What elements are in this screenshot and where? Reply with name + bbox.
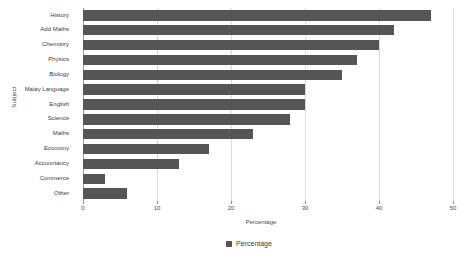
category-label: Other (0, 189, 69, 197)
category-label: English (0, 100, 69, 108)
bar-maths (83, 129, 253, 139)
bar-row: Commerce (83, 171, 453, 186)
bar-row: Maths (83, 127, 453, 142)
category-label: Economy (0, 144, 69, 152)
bar-chemistry (83, 40, 379, 50)
chart-legend: Percentage (0, 240, 462, 247)
category-label: Maths (0, 129, 69, 137)
x-tick-mark-20 (231, 201, 232, 204)
category-label: History (0, 11, 69, 19)
x-tick-mark-30 (305, 201, 306, 204)
x-tick-mark-40 (379, 201, 380, 204)
legend-label-percentage: Percentage (236, 240, 272, 247)
bar-row: Physics (83, 53, 453, 68)
bar-row: English (83, 97, 453, 112)
x-tick-label-0: 0 (68, 205, 98, 211)
category-label: Chemistry (0, 40, 69, 48)
bar-row: Malay Language (83, 82, 453, 97)
bar-physics (83, 55, 357, 65)
x-tick-mark-50 (453, 201, 454, 204)
bar-row: History (83, 8, 453, 23)
category-label: Accountancy (0, 159, 69, 167)
category-label: Add Maths (0, 25, 69, 33)
category-label: Malay Language (0, 85, 69, 93)
plot-area: HistoryAdd MathsChemistryPhysicsBiologyM… (83, 8, 453, 201)
x-tick-label-30: 30 (290, 205, 320, 211)
category-label: Science (0, 114, 69, 122)
bar-malay-language (83, 84, 305, 94)
bars-layer: HistoryAdd MathsChemistryPhysicsBiologyM… (83, 8, 453, 201)
category-label: Biology (0, 70, 69, 78)
bar-history (83, 10, 431, 20)
bar-row: Accountancy (83, 156, 453, 171)
x-tick-label-40: 40 (364, 205, 394, 211)
bar-row: Biology (83, 67, 453, 82)
category-label: Commerce (0, 174, 69, 182)
x-tick-label-10: 10 (142, 205, 172, 211)
x-tick-label-50: 50 (438, 205, 462, 211)
bar-add-maths (83, 25, 394, 35)
bar-other (83, 188, 127, 198)
bar-economy (83, 144, 209, 154)
x-tick-label-20: 20 (216, 205, 246, 211)
x-tick-mark-0 (83, 201, 84, 204)
x-axis: 01020304050 (83, 201, 453, 217)
bar-science (83, 114, 290, 124)
legend-swatch-percentage (226, 241, 232, 247)
category-label: Physics (0, 55, 69, 63)
bar-row: Economy (83, 142, 453, 157)
x-tick-mark-10 (157, 201, 158, 204)
bar-row: Add Maths (83, 23, 453, 38)
x-axis-title: Percentage (0, 219, 462, 225)
bar-chart: Subject HistoryAdd MathsChemistryPhysics… (0, 0, 462, 258)
bar-english (83, 99, 305, 109)
gridline-50 (453, 8, 454, 201)
bar-row: Chemistry (83, 38, 453, 53)
bar-biology (83, 70, 342, 80)
bar-row: Science (83, 112, 453, 127)
bar-row: Other (83, 186, 453, 201)
bar-commerce (83, 174, 105, 184)
bar-accountancy (83, 159, 179, 169)
